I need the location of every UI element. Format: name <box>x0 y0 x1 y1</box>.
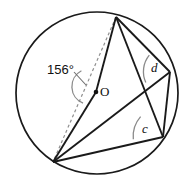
central-angle-leader-line <box>74 72 86 85</box>
inscribed-angle-d-arc <box>143 55 149 82</box>
chord-D-C <box>163 72 170 137</box>
radius-O-B <box>53 92 96 162</box>
inscribed-angle-c-arc <box>133 117 140 140</box>
center-point-label: O <box>100 85 109 98</box>
chord-T-C <box>116 17 163 137</box>
center-point-dot <box>94 90 99 95</box>
central-angle-label: 156° <box>47 63 74 76</box>
geometry-figure: 156° O d c <box>0 0 185 182</box>
geometry-canvas <box>0 0 185 182</box>
inscribed-angle-c-label: c <box>142 122 148 135</box>
radius-O-T <box>96 17 116 92</box>
inscribed-angle-d-label: d <box>151 61 158 74</box>
